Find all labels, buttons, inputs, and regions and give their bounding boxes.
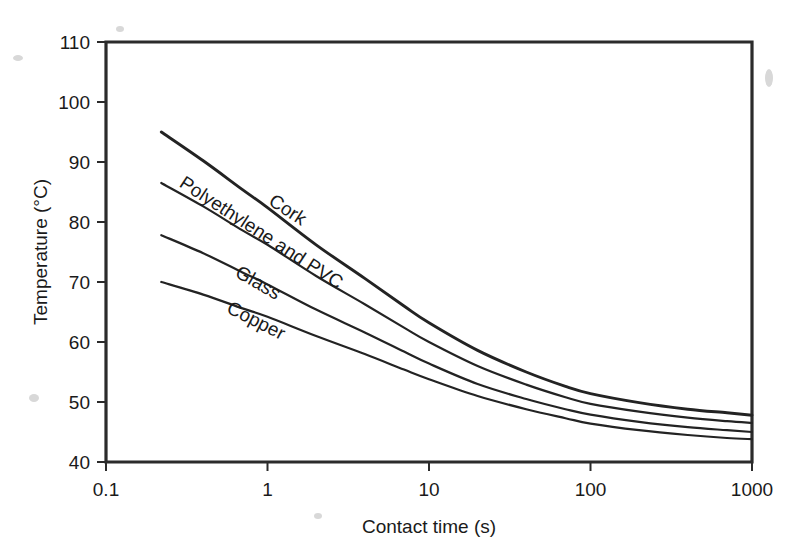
- scan-speck: [29, 394, 39, 402]
- y-tick-label: 50: [69, 392, 90, 413]
- scan-speck: [314, 513, 322, 519]
- scan-speck: [13, 55, 23, 61]
- x-axis-title: Contact time (s): [362, 516, 496, 537]
- scan-speck: [116, 26, 124, 32]
- y-tick-label: 90: [69, 152, 90, 173]
- y-tick-label: 100: [58, 92, 90, 113]
- y-axis-tick-labels: 405060708090100110: [58, 32, 90, 473]
- x-tick-label: 10: [418, 479, 439, 500]
- series-label-glass: Glass: [232, 261, 285, 303]
- y-tick-label: 70: [69, 272, 90, 293]
- series-annotations: CorkPolyethylene and PVCGlassCopper: [176, 172, 347, 344]
- x-tick-label: 1000: [731, 479, 773, 500]
- x-tick-label: 100: [575, 479, 607, 500]
- figure-container: 405060708090100110 0.11101001000 CorkPol…: [0, 0, 800, 560]
- y-tick-label: 40: [69, 452, 90, 473]
- scan-speck: [765, 69, 773, 87]
- y-tick-label: 110: [60, 32, 90, 53]
- y-tick-label: 80: [69, 212, 90, 233]
- x-tick-label: 0.1: [93, 479, 119, 500]
- series-label-copper: Copper: [224, 297, 290, 344]
- y-tick-label: 60: [69, 332, 90, 353]
- x-axis-tick-labels: 0.11101001000: [93, 479, 773, 500]
- y-axis-title: Temperature (°C): [30, 179, 51, 325]
- x-tick-label: 1: [262, 479, 273, 500]
- temperature-contact-time-chart: 405060708090100110 0.11101001000 CorkPol…: [0, 0, 800, 560]
